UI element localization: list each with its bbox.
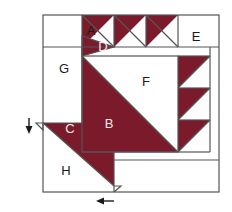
quilt-block-svg: A B C D E F G H <box>0 0 232 212</box>
label-c: C <box>65 121 74 136</box>
label-h: H <box>61 163 70 178</box>
label-g: G <box>59 61 69 76</box>
label-d: D <box>98 39 107 54</box>
label-a: A <box>87 23 96 38</box>
quilt-block-diagram: A B C D E F G H <box>0 0 232 212</box>
label-e: E <box>192 29 201 44</box>
label-f: F <box>142 74 150 89</box>
label-b: B <box>105 116 114 131</box>
